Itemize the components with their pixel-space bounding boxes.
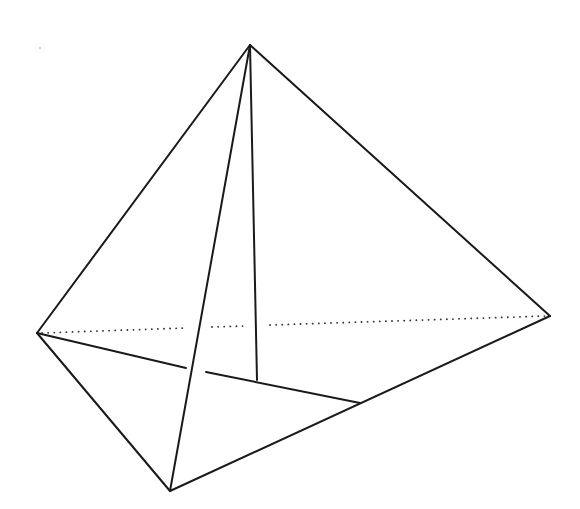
edge-left-right-dotted-c [270,316,546,325]
edge-apex-bottom [170,45,250,491]
edge-left-midbr-b [206,372,360,403]
edge-left-right-dotted-b [212,326,244,327]
edge-left-bottom [37,333,170,491]
edge-apex-right [250,45,550,316]
scan-speck [39,47,41,49]
tetrahedron-diagram [0,0,580,509]
hidden-edges [42,316,546,333]
edge-apex-foot [250,45,257,380]
visible-edges [37,45,550,491]
edge-left-right-dotted-a [42,328,185,333]
edge-left-midbr-a [37,333,186,368]
edge-apex-left [37,45,250,333]
